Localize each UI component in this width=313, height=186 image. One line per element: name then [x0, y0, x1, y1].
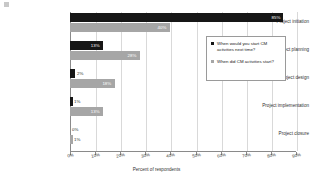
bar-value-label: 13% [91, 107, 100, 116]
bar-value-label: 2% [77, 69, 83, 78]
xtick-label-90: 90% [292, 152, 302, 159]
x-axis-title: Percent of respondents [0, 167, 313, 172]
xtick-label-20: 20% [116, 152, 126, 159]
bar-series0-cat2: 2% [70, 69, 75, 78]
xtick-label-0: 0% [67, 152, 74, 158]
bar-series1-cat4: 1% [70, 135, 73, 144]
xtick-label-30: 30% [141, 152, 151, 159]
xtick-label-50: 50% [191, 152, 201, 159]
gridline-20 [121, 12, 122, 151]
legend-item-0: When would you start CM activities next … [211, 41, 282, 52]
bar-value-label: 85% [272, 13, 281, 22]
legend-label: When would you start CM activities next … [217, 41, 267, 52]
legend-swatch-icon [211, 60, 214, 63]
bar-value-label: 0% [72, 125, 78, 134]
chart-legend: When would you start CM activities next … [206, 36, 286, 81]
bar-series0-cat3: 1% [70, 97, 73, 106]
gridline-30 [146, 12, 147, 151]
legend-label: When did CM activities start? [217, 59, 274, 64]
bar-chart: Project initiation 85% 40% Project plann… [0, 0, 313, 186]
scan-artifact [4, 2, 9, 7]
bar-value-label: 1% [74, 97, 80, 106]
gridline-60 [222, 12, 223, 151]
bar-value-label: 1% [74, 135, 80, 144]
xtick-label-80: 80% [267, 152, 277, 159]
bar-series0-cat0: 85% [70, 13, 283, 22]
bar-series1-cat0: 40% [70, 23, 170, 32]
bar-value-label: 40% [158, 23, 167, 32]
bar-value-label: 13% [91, 41, 100, 50]
legend-swatch-icon [211, 42, 214, 45]
xtick-label-60: 60% [216, 152, 226, 159]
bar-series1-cat2: 18% [70, 79, 115, 88]
bar-series0-cat1: 13% [70, 41, 103, 50]
gridline-40 [171, 12, 172, 151]
bar-value-label: 28% [128, 51, 137, 60]
xtick-label-10: 10% [91, 152, 101, 159]
bar-series1-cat3: 13% [70, 107, 103, 116]
xtick-label-70: 70% [241, 152, 251, 159]
xtick-label-40: 40% [166, 152, 176, 159]
bar-value-label: 18% [102, 79, 111, 88]
legend-item-1: When did CM activities start? [211, 59, 282, 65]
gridline-50 [197, 12, 198, 151]
bar-series1-cat1: 28% [70, 51, 140, 60]
